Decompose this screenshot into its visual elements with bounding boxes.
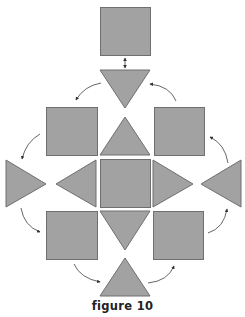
arrow-8-icon [150, 84, 176, 101]
arrow-3-icon [21, 208, 40, 232]
inner-right-right-triangle [153, 160, 193, 207]
far-left-right-triangle [6, 160, 46, 207]
arrow-4-icon [74, 264, 100, 282]
lower-left-square [47, 212, 98, 260]
far-right-left-triangle [201, 160, 241, 207]
arrow-7-icon [210, 137, 228, 163]
diagram-canvas [0, 0, 245, 317]
figure-caption: figure 10 [0, 299, 245, 313]
arrow-5-icon [148, 266, 174, 283]
top-square [101, 8, 151, 56]
bottom-up-triangle [100, 258, 150, 296]
arrow-1-icon [76, 83, 101, 100]
arrow-6-icon [208, 209, 227, 233]
lower-right-square [154, 212, 204, 260]
upper-left-square [47, 108, 98, 156]
lower-center-down-triangle [100, 211, 150, 250]
upper-center-up-triangle [100, 117, 150, 155]
upper-right-square [155, 108, 205, 156]
inner-left-left-triangle [56, 160, 96, 207]
shapes-layer [6, 8, 241, 297]
center-square [101, 160, 151, 208]
arrow-2-icon [22, 134, 40, 159]
top-down-triangle [100, 70, 150, 108]
